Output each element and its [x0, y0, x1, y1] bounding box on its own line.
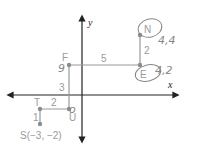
length-F-E: 5 [101, 53, 107, 64]
length-T-U: 2 [51, 97, 57, 108]
handwritten-E-coords: 4,2 [155, 64, 173, 77]
label-S: S(−3, −2) [20, 130, 62, 141]
length-S-T: 1 [33, 112, 39, 123]
label-E: E [140, 69, 147, 80]
point-F [67, 63, 71, 67]
handwritten-U-mark: o [69, 103, 76, 116]
y-axis-label: y [87, 17, 93, 28]
x-axis-label: x [167, 79, 173, 90]
handwritten-F-mark: 9 [58, 62, 65, 75]
length-E-N: 2 [144, 45, 150, 56]
path-segments [40, 35, 140, 124]
handwritten-N-coords: 4,4 [158, 34, 176, 47]
label-T: T [34, 97, 40, 108]
coordinate-diagram: y x N E F U T S(−3, −2) 1 2 3 5 2 4,4 4,… [0, 0, 197, 154]
label-N: N [144, 24, 151, 35]
length-U-F: 3 [59, 82, 65, 93]
